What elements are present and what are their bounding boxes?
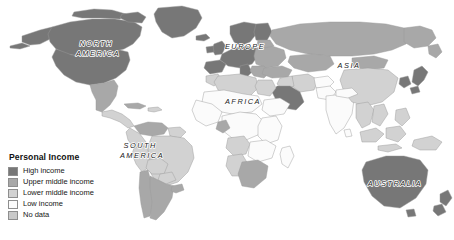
legend-label-lower-middle-income: Lower middle income — [23, 189, 94, 197]
region-central-america — [102, 110, 134, 128]
region-indonesia-borneo — [386, 126, 406, 142]
region-greenland — [154, 6, 202, 38]
region-ireland — [206, 46, 214, 53]
region-tasmania — [406, 209, 416, 217]
region-finland — [254, 23, 272, 42]
region-sri-lanka — [344, 129, 352, 137]
region-mexico — [90, 80, 118, 112]
legend-item-no-data: No data — [8, 210, 132, 220]
label-north-america-line1: NORTH — [79, 39, 113, 48]
region-myanmar-thailand — [356, 102, 374, 128]
region-korea — [399, 76, 411, 88]
region-turkey — [262, 66, 292, 78]
region-iceland — [196, 34, 210, 41]
legend-item-lower-middle-income: Lower middle income — [8, 188, 132, 198]
legend-title: Personal Income — [9, 152, 132, 162]
region-vietnam — [372, 104, 388, 126]
label-europe: EUROPE — [225, 42, 265, 51]
region-siberia-east — [404, 26, 436, 48]
legend-item-upper-middle-income: Upper middle income — [8, 177, 132, 187]
region-south-africa — [238, 160, 268, 188]
region-philippines — [395, 108, 410, 126]
legend-label-upper-middle-income: Upper middle income — [23, 178, 94, 186]
region-japan — [412, 66, 428, 86]
legend-item-low-income: Low income — [8, 199, 132, 209]
region-iberia — [204, 60, 226, 74]
region-kamchatka — [428, 44, 442, 58]
label-africa: AFRICA — [224, 97, 261, 106]
legend-swatch-lower-middle-income — [8, 189, 18, 198]
region-japan-south — [410, 86, 420, 94]
region-indonesia-java — [378, 144, 402, 152]
region-new-zealand-south — [433, 204, 446, 216]
region-papua-new-guinea — [412, 136, 442, 150]
label-australia: AUSTRALIA — [367, 179, 423, 188]
region-east-africa — [258, 116, 282, 144]
label-north-america: NORTH AMERICA — [75, 39, 120, 58]
region-cuba — [124, 103, 146, 109]
legend-swatch-upper-middle-income — [8, 178, 18, 187]
legend-label-high-income: High income — [23, 167, 65, 175]
legend-swatch-high-income — [8, 167, 18, 176]
region-zambia-mozambique — [248, 140, 276, 162]
region-russia — [270, 22, 412, 56]
legend-swatch-low-income — [8, 200, 18, 209]
legend-label-no-data: No data — [23, 211, 49, 219]
map-legend: Personal Income High income Upper middle… — [8, 152, 132, 221]
legend-swatch-no-data — [8, 211, 18, 220]
label-north-america-line2: AMERICA — [75, 49, 120, 58]
region-afghanistan — [314, 76, 334, 88]
label-south-america-line1: SOUTH — [124, 141, 157, 150]
region-uruguay — [171, 184, 184, 193]
region-new-zealand — [440, 190, 452, 206]
region-angola — [226, 136, 250, 156]
region-india — [326, 94, 354, 134]
region-indonesia-sumatra — [360, 128, 384, 142]
region-kazakhstan — [288, 54, 334, 72]
legend-item-high-income: High income — [8, 166, 132, 176]
region-madagascar — [280, 146, 294, 168]
legend-label-low-income: Low income — [23, 200, 63, 208]
region-canadian-arctic — [72, 9, 126, 19]
label-asia: ASIA — [337, 61, 361, 70]
region-hispaniola — [148, 107, 162, 112]
